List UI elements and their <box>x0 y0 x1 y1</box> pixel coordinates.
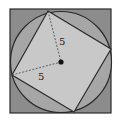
center-dot <box>58 59 63 64</box>
radius-label-horizontal: 5 <box>38 71 44 82</box>
geometry-diagram: 5 5 <box>0 0 119 124</box>
radius-label-vertical: 5 <box>59 36 65 47</box>
